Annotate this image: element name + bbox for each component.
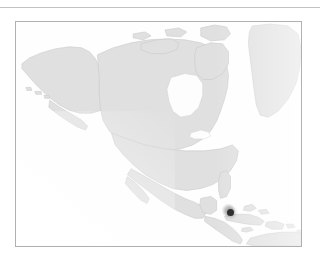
figure-page: Faint grayscale outline map of North Ame… bbox=[0, 0, 320, 263]
page-horizontal-rule bbox=[0, 7, 320, 8]
occurrence-point-marker[interactable] bbox=[227, 209, 234, 216]
scan-fade-bottom-left bbox=[16, 111, 175, 246]
land-yucatan bbox=[200, 196, 217, 214]
map-frame bbox=[15, 21, 302, 247]
map-canvas bbox=[16, 22, 301, 246]
